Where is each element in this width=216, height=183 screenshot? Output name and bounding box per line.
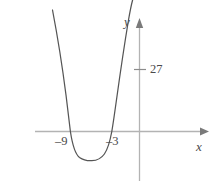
y-axis-arrow-icon (136, 18, 143, 28)
parabola-figure: y x 27 –9 –3 (0, 0, 216, 183)
x-axis-label: x (196, 140, 202, 153)
y-axis-label: y (124, 15, 130, 28)
x-axis-arrow-icon (200, 128, 209, 136)
root-right-label: –3 (106, 135, 119, 148)
root-left-label: –9 (55, 135, 68, 148)
graph-canvas (0, 0, 216, 183)
y-intercept-value-label: 27 (150, 63, 163, 76)
